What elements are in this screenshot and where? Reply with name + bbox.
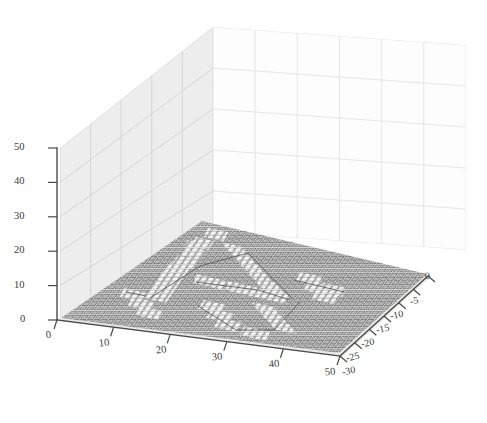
x-tick-label-20: 20	[155, 344, 167, 356]
x-tick-label-50: 50	[324, 366, 336, 378]
z-axis-ticks	[48, 148, 57, 320]
y-tick-label-m5: -5	[409, 295, 419, 307]
x-tick-label-0: 0	[45, 330, 51, 341]
right-wall-pane	[213, 27, 466, 250]
z-tick-label-30: 30	[14, 211, 25, 222]
z-tick-label-0: 0	[20, 314, 25, 325]
z-tick-label-10: 10	[14, 280, 25, 291]
x-tick-label-40: 40	[268, 358, 280, 370]
z-tick-label-50: 50	[14, 142, 25, 153]
figure-canvas: 0 10 20 30 40 50 0 10 20 30 40 50 0 -5 -…	[0, 0, 487, 423]
z-tick-label-40: 40	[14, 176, 25, 187]
plot-svg	[0, 0, 487, 423]
x-tick-label-30: 30	[211, 351, 223, 363]
z-tick-label-20: 20	[14, 245, 25, 256]
x-tick-label-10: 10	[98, 337, 110, 349]
